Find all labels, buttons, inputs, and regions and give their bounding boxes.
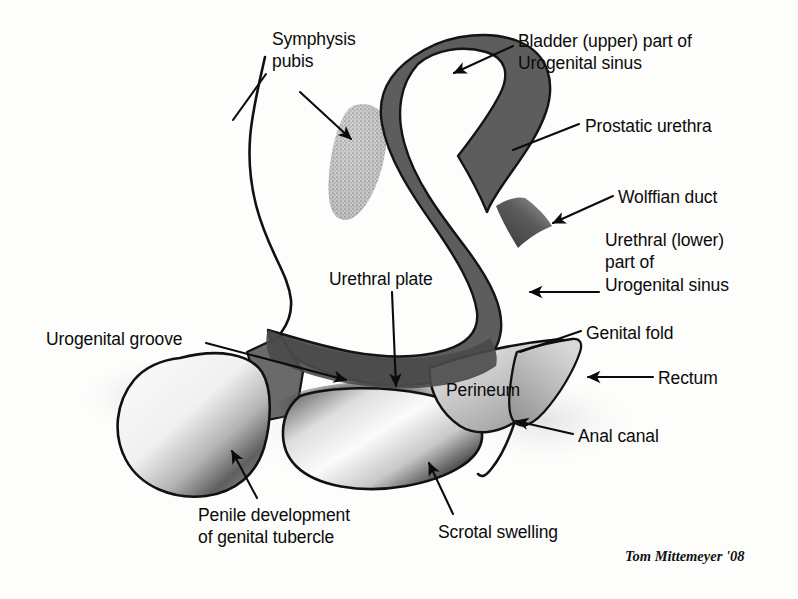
label-bladder-upper-part: Bladder (upper) part of Urogenital sinus: [518, 30, 692, 75]
label-perineum: Perineum: [446, 379, 520, 401]
label-scrotal-swelling: Scrotal swelling: [438, 521, 558, 543]
label-symphysis-pubis: Symphysis pubis: [272, 28, 356, 73]
label-urethral-plate: Urethral plate: [329, 268, 433, 290]
label-anal-canal: Anal canal: [578, 425, 659, 447]
label-rectum: Rectum: [658, 367, 718, 389]
leader-abdominal-wall: [233, 74, 266, 120]
label-prostatic-urethra: Prostatic urethra: [585, 115, 712, 137]
wolffian-duct-body: [496, 197, 552, 248]
leader-symphysis-pubis: [300, 92, 351, 139]
abdominal-wall-contour: [249, 57, 291, 358]
label-wolffian-duct: Wolffian duct: [618, 186, 717, 208]
artist-signature: Tom Mittemeyer '08: [625, 548, 744, 565]
label-genital-fold: Genital fold: [586, 322, 673, 344]
genital-tubercle: [118, 353, 270, 496]
anatomy-figure: Symphysis pubis Bladder (upper) part of …: [0, 0, 798, 599]
label-penile-development: Penile development of genital tubercle: [198, 504, 350, 549]
label-urogenital-groove: Urogenital groove: [46, 328, 182, 350]
label-urethral-lower-part: Urethral (lower) part of Urogenital sinu…: [605, 229, 729, 296]
anatomy-diagram-svg: [0, 0, 798, 599]
symphysis-pubis-body: [329, 104, 387, 220]
leader-wolffian-duct: [553, 196, 613, 223]
